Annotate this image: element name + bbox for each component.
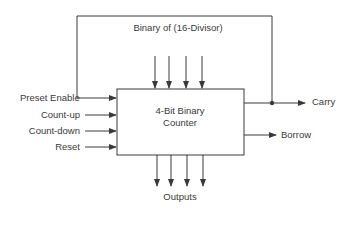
block-label-line2: Counter	[120, 118, 240, 128]
outputs-label: Outputs	[150, 192, 210, 202]
count-down-label: Count-down	[10, 126, 80, 136]
reset-label: Reset	[10, 142, 80, 152]
count-up-label: Count-up	[10, 110, 80, 120]
carry-label: Carry	[312, 97, 335, 107]
preset-enable-label: Preset Enable	[20, 93, 80, 103]
junction-dot	[270, 101, 274, 105]
feedback-label: Binary of (16-Divisor)	[118, 23, 238, 33]
block-label-line1: 4-Bit Binary	[120, 106, 240, 116]
borrow-label: Borrow	[281, 130, 311, 140]
